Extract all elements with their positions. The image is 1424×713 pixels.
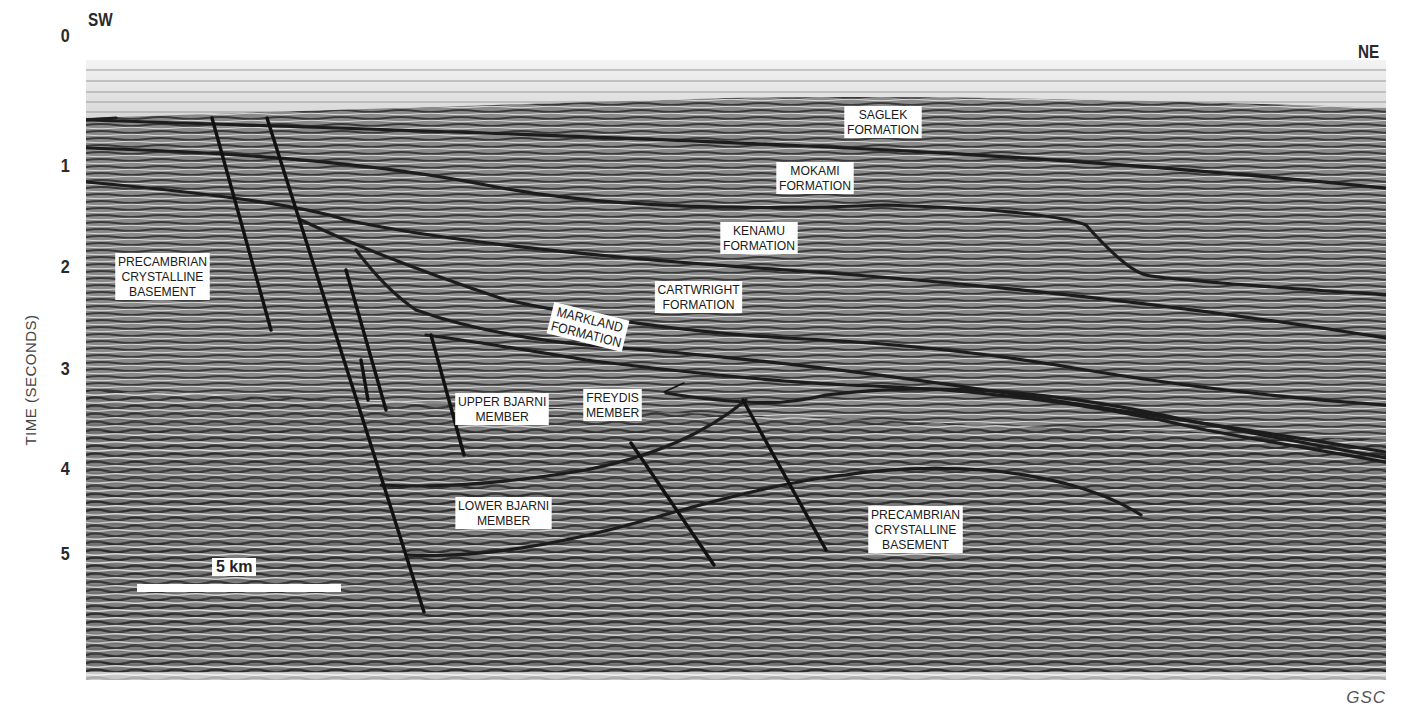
direction-sw: SW: [88, 10, 113, 31]
y-tick-4: 4: [61, 458, 70, 480]
y-tick-1: 1: [61, 155, 70, 177]
y-tick-5: 5: [61, 543, 70, 565]
y-tick-2: 2: [61, 256, 70, 278]
label-cartwright-formation: CARTWRIGHTFORMATION: [655, 281, 743, 313]
y-axis-label: TIME (SECONDS): [22, 314, 39, 445]
label-lower-bjarni-member: LOWER BJARNIMEMBER: [455, 497, 552, 529]
label-kenamu-formation: KENAMUFORMATION: [720, 222, 797, 254]
y-tick-0: 0: [61, 25, 70, 47]
label-saglek-formation: SAGLEKFORMATION: [844, 106, 921, 138]
scale-bar-label: 5 km: [212, 558, 256, 576]
scale-bar: [137, 584, 341, 592]
credit-gsc: GSC: [1346, 688, 1386, 708]
label-mokami-formation: MOKAMIFORMATION: [776, 162, 853, 194]
label-upper-bjarni-member: UPPER BJARNIMEMBER: [455, 393, 549, 425]
label-freydis-member: FREYDISMEMBER: [583, 389, 642, 421]
y-tick-3: 3: [61, 358, 70, 380]
label-precambrian-basement-west: PRECAMBRIANCRYSTALLINEBASEMENT: [115, 253, 210, 300]
label-precambrian-basement-east: PRECAMBRIANCRYSTALLINEBASEMENT: [868, 506, 963, 553]
